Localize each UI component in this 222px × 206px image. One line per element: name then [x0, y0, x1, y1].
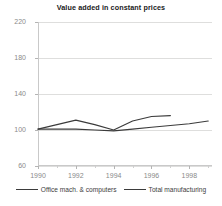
x-tick-label: 1996 — [136, 172, 166, 179]
legend-line-icon — [16, 189, 38, 190]
x-minor-tick-mark — [95, 166, 96, 168]
x-tick-label: 1998 — [174, 172, 204, 179]
x-minor-tick-mark — [208, 166, 209, 168]
legend-label: Total manufacturing — [149, 186, 207, 193]
legend-line-icon — [124, 189, 146, 190]
y-tick-label: 220 — [0, 18, 26, 25]
x-tick-label: 1994 — [99, 172, 129, 179]
x-minor-tick-mark — [57, 166, 58, 168]
y-tick-label: 100 — [0, 126, 26, 133]
x-minor-tick-mark — [170, 166, 171, 168]
series-layer — [38, 22, 212, 166]
x-tick-mark — [114, 166, 115, 169]
legend-label: Office mach. & computers — [41, 186, 117, 193]
legend-item-office-mach-computers: Office mach. & computers — [16, 186, 117, 193]
x-minor-tick-mark — [133, 166, 134, 168]
y-tick-label: 180 — [0, 54, 26, 61]
x-tick-label: 1992 — [61, 172, 91, 179]
chart-title: Value added in constant prices — [0, 3, 222, 12]
x-tick-mark — [151, 166, 152, 169]
legend-item-total-manufacturing: Total manufacturing — [124, 186, 207, 193]
chart-legend: Office mach. & computers Total manufactu… — [0, 186, 222, 193]
y-tick-label: 140 — [0, 90, 26, 97]
chart-container: Value added in constant prices 220180140… — [0, 0, 222, 206]
x-tick-mark — [76, 166, 77, 169]
x-tick-mark — [189, 166, 190, 169]
x-tick-label: 1990 — [23, 172, 53, 179]
grid-line — [38, 166, 212, 167]
y-tick-label: 60 — [0, 162, 26, 169]
x-tick-mark — [38, 166, 39, 169]
plot-area: 22018014010060 19901992199419961998 — [38, 22, 212, 166]
